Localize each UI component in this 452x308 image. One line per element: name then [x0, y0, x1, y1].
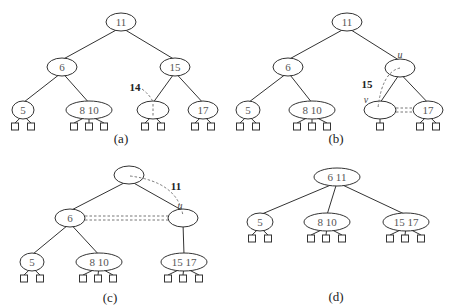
tree-edge [248, 72, 288, 102]
external-leaf-square [294, 123, 301, 130]
tree-node-d-8-10: 8 10 [304, 213, 350, 231]
external-leaf-square [433, 123, 440, 130]
tree-node-d-root: 6 11 [314, 168, 360, 186]
external-leaf-square [192, 123, 199, 130]
tree-edge [23, 72, 62, 102]
external-leaf-square [417, 123, 424, 130]
tree-edge [183, 223, 184, 254]
tree-node-b-v [364, 101, 396, 119]
tree-edge [70, 223, 99, 254]
node-key-label: 8 10 [317, 216, 337, 228]
external-leaf-square [95, 275, 102, 282]
external-leaf-square [253, 123, 260, 130]
tree-node-a-6: 6 [47, 58, 77, 76]
tree-node-c-u [168, 209, 198, 227]
node-key-label: 8 10 [89, 256, 109, 268]
tree-edge [62, 27, 121, 59]
panel-a: 1161558 101714(a) [12, 13, 219, 146]
node-key-label: 8 10 [302, 104, 322, 116]
tree-diagram: 1161558 101714(a)11658 1017uv15(b)658 10… [0, 0, 452, 308]
external-leaf-square [418, 235, 425, 242]
external-leaf-square [339, 235, 346, 242]
node-key-label: 5 [245, 104, 251, 116]
tree-node-d-5: 5 [247, 213, 273, 231]
tree-edge [62, 72, 89, 102]
node-ellipse [364, 101, 396, 119]
tree-node-b-5: 5 [236, 101, 260, 119]
tree-edge [347, 27, 400, 60]
tree-node-a-15: 15 [160, 58, 190, 76]
annotation-label: v [364, 94, 369, 105]
annotation-label: 11 [171, 180, 181, 192]
dashed-operation-arrow [142, 89, 153, 102]
tree-node-c-15-17: 15 17 [161, 253, 207, 271]
tree-node-c-6: 6 [55, 209, 85, 227]
node-key-label: 15 17 [172, 256, 197, 268]
node-ellipse [168, 209, 198, 227]
external-leaf-square [165, 275, 172, 282]
tree-edge [327, 182, 337, 214]
tree-node-a-8-10: 8 10 [66, 101, 112, 119]
external-leaf-square [387, 235, 394, 242]
node-key-label: 11 [342, 16, 353, 28]
node-key-label: 5 [29, 256, 35, 268]
external-leaf-square [80, 275, 87, 282]
tree-node-b-8-10: 8 10 [289, 101, 335, 119]
tree-edge [288, 72, 312, 102]
annotation-label: 14 [130, 81, 142, 93]
node-key-label: 15 [170, 61, 182, 73]
tree-edge [288, 27, 347, 59]
panel-caption: (d) [328, 289, 343, 304]
node-key-label: 6 [285, 61, 291, 73]
node-key-label: 5 [257, 216, 263, 228]
tree-edge [260, 182, 337, 214]
tree-node-b-17: 17 [413, 101, 443, 119]
node-key-label: 17 [198, 104, 210, 116]
node-key-label: 17 [423, 104, 435, 116]
panel-caption: (b) [328, 131, 343, 146]
panel-c: 658 1015 1711u(c) [20, 166, 207, 305]
node-key-label: 6 [59, 61, 65, 73]
node-ellipse [114, 166, 144, 184]
external-leaf-square [110, 275, 117, 282]
external-leaf-square [142, 123, 149, 130]
external-leaf-square [21, 275, 28, 282]
external-leaf-square [323, 235, 330, 242]
external-leaf-square [265, 235, 272, 242]
external-leaf-square [37, 275, 44, 282]
panel-b: 11658 1017uv15(b) [236, 13, 443, 146]
external-leaf-square [158, 123, 165, 130]
tree-node-b-root: 11 [332, 13, 362, 31]
node-key-label: 6 [67, 212, 73, 224]
tree-edge [70, 180, 129, 210]
external-leaf-square [180, 275, 187, 282]
node-key-label: 6 11 [328, 171, 347, 183]
tree-node-c-8-10: 8 10 [76, 253, 122, 271]
external-leaf-square [196, 275, 203, 282]
external-leaf-square [309, 123, 316, 130]
external-leaf-square [86, 123, 93, 130]
external-leaf-square [377, 123, 384, 130]
tree-edge [175, 72, 203, 102]
node-key-label: 8 10 [79, 104, 99, 116]
tree-edge [153, 72, 175, 102]
tree-node-c-root [114, 166, 144, 184]
tree-node-a-17: 17 [188, 101, 218, 119]
annotation-label: u [178, 200, 183, 211]
tree-node-a-root: 11 [106, 13, 136, 31]
annotation-label: 15 [362, 78, 374, 90]
tree-edge [32, 223, 70, 254]
external-leaf-square [208, 123, 215, 130]
tree-node-c-5: 5 [20, 253, 44, 271]
panel-caption: (c) [103, 290, 117, 305]
external-leaf-square [402, 235, 409, 242]
tree-edge [380, 73, 400, 102]
node-key-label: 11 [116, 16, 127, 28]
external-leaf-square [12, 123, 19, 130]
external-leaf-square [237, 123, 244, 130]
external-leaf-square [324, 123, 331, 130]
tree-edge [400, 73, 428, 102]
tree-edge [337, 182, 406, 214]
panel-d: 6 1158 1015 17(d) [247, 168, 429, 304]
tree-node-d-15-17: 15 17 [383, 213, 429, 231]
